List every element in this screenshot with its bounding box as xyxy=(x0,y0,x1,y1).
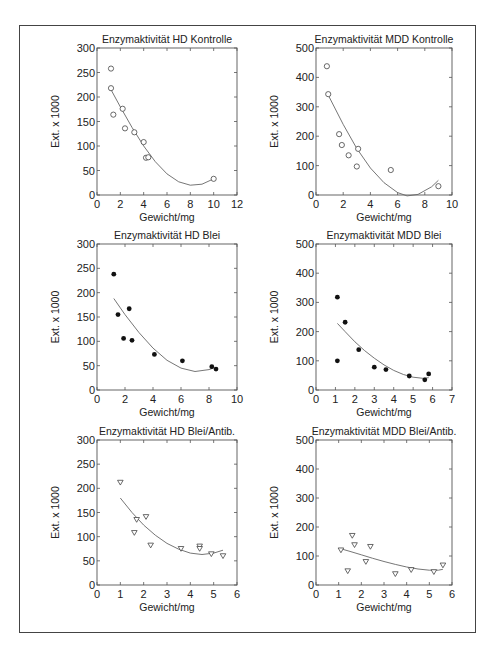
data-point xyxy=(368,544,374,549)
data-point xyxy=(141,139,146,144)
x-axis-label: Gewicht/mg xyxy=(139,601,195,613)
y-tick-label: 100 xyxy=(77,531,95,543)
data-point xyxy=(152,352,157,357)
y-tick-label: 200 xyxy=(296,326,314,338)
y-tick-label: 200 xyxy=(296,130,314,142)
x-tick-label: 12 xyxy=(231,198,243,210)
x-tick-label: 4 xyxy=(141,198,147,210)
x-tick-label: 2 xyxy=(340,198,346,210)
data-point xyxy=(338,548,344,553)
data-point xyxy=(121,336,126,341)
data-point xyxy=(335,295,340,300)
data-point xyxy=(384,367,389,372)
data-point xyxy=(211,176,216,181)
chart-panel-5: Enzymaktivität HD Blei/Antib.01234560501… xyxy=(49,425,240,613)
y-tick-label: 250 xyxy=(77,458,95,470)
data-point xyxy=(388,167,393,172)
x-tick-label: 3 xyxy=(164,588,170,600)
chart-title: Enzymaktivität HD Blei xyxy=(114,229,220,241)
y-tick-label: 0 xyxy=(308,384,314,396)
x-tick-label: 4 xyxy=(150,393,156,405)
data-point xyxy=(343,320,348,325)
y-tick-label: 500 xyxy=(296,42,314,54)
plot-area xyxy=(316,48,452,195)
x-tick-label: 4 xyxy=(187,588,193,600)
x-tick-label: 4 xyxy=(391,393,397,405)
y-tick-label: 300 xyxy=(77,42,95,54)
data-point xyxy=(132,531,138,536)
y-tick-label: 200 xyxy=(77,482,95,494)
data-point xyxy=(345,569,351,574)
chart-panel-4: Enzymaktivität MDD Blei01234567010020030… xyxy=(268,229,455,418)
data-point xyxy=(143,515,149,520)
data-point xyxy=(108,66,113,71)
x-tick-label: 1 xyxy=(336,588,342,600)
data-point xyxy=(197,547,203,552)
chart-title: Enzymaktivität HD Blei/Antib. xyxy=(99,425,235,437)
data-point xyxy=(436,184,441,189)
y-tick-label: 300 xyxy=(77,434,95,446)
data-point xyxy=(337,132,342,137)
data-point xyxy=(214,367,219,372)
data-point xyxy=(408,568,414,573)
x-tick-label: 8 xyxy=(206,393,212,405)
data-point xyxy=(122,126,127,131)
data-point xyxy=(356,347,361,352)
data-point xyxy=(146,155,151,160)
data-point xyxy=(180,358,185,363)
y-tick-label: 250 xyxy=(77,67,95,79)
x-axis-label: Gewicht/mg xyxy=(356,406,412,418)
chart-title: Enzymaktivität MDD Blei xyxy=(327,229,442,241)
y-tick-label: 300 xyxy=(296,296,314,308)
y-axis-label: Ext. x 1000 xyxy=(268,291,280,344)
y-tick-label: 200 xyxy=(77,91,95,103)
y-axis-label: Ext. x 1000 xyxy=(268,95,280,148)
x-tick-label: 5 xyxy=(211,588,217,600)
data-point xyxy=(111,112,116,117)
data-point xyxy=(324,64,329,69)
x-tick-label: 2 xyxy=(352,393,358,405)
data-point xyxy=(132,130,137,135)
x-tick-label: 8 xyxy=(422,198,428,210)
data-point xyxy=(118,480,124,485)
x-tick-label: 2 xyxy=(141,588,147,600)
fit-curve xyxy=(111,90,214,186)
chart-title: Enzymaktivität MDD Kontrolle xyxy=(315,33,454,45)
x-tick-label: 10 xyxy=(208,198,220,210)
plot-area xyxy=(97,48,237,195)
chart-panel-2: Enzymaktivität MDD Kontrolle024681001002… xyxy=(268,33,458,223)
chart-title: Enzymaktivität MDD Blei/Antib. xyxy=(312,425,457,437)
x-axis-label: Gewicht/mg xyxy=(139,406,195,418)
y-tick-label: 50 xyxy=(83,555,95,567)
fit-curve xyxy=(341,549,443,570)
data-point xyxy=(349,533,355,538)
x-axis-label: Gewicht/mg xyxy=(356,211,412,223)
data-point xyxy=(130,338,135,343)
y-tick-label: 50 xyxy=(83,360,95,372)
y-axis-label: Ext. x 1000 xyxy=(49,486,61,539)
y-tick-label: 200 xyxy=(296,521,314,533)
y-tick-label: 0 xyxy=(89,189,95,201)
y-tick-label: 500 xyxy=(296,434,314,446)
y-tick-label: 100 xyxy=(296,160,314,172)
data-point xyxy=(440,563,446,568)
x-tick-label: 4 xyxy=(367,198,373,210)
plot-area xyxy=(97,440,237,585)
y-tick-label: 400 xyxy=(296,463,314,475)
y-tick-label: 100 xyxy=(296,550,314,562)
chart-panel-1: Enzymaktivität HD Kontrolle0246810120501… xyxy=(49,33,243,223)
y-tick-label: 0 xyxy=(308,579,314,591)
y-tick-label: 150 xyxy=(77,507,95,519)
x-tick-label: 6 xyxy=(234,588,240,600)
y-axis-label: Ext. x 1000 xyxy=(49,291,61,344)
data-point xyxy=(209,552,215,557)
data-point xyxy=(363,560,369,565)
data-point xyxy=(407,374,412,379)
x-tick-label: 3 xyxy=(381,588,387,600)
x-tick-label: 10 xyxy=(231,393,243,405)
y-tick-label: 150 xyxy=(77,116,95,128)
x-axis-label: Gewicht/mg xyxy=(356,601,412,613)
figure-canvas: Enzymaktivität HD Kontrolle0246810120501… xyxy=(0,0,493,652)
x-tick-label: 2 xyxy=(358,588,364,600)
y-tick-label: 500 xyxy=(296,238,314,250)
